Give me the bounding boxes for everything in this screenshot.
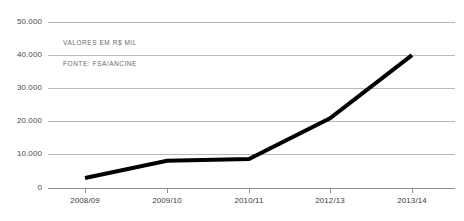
line-chart: 50.000 40.000 30.000 20.000 10.000 0 200…	[0, 0, 464, 221]
gridline-40000	[48, 55, 455, 56]
y-tick-label-40000: 40.000	[4, 50, 42, 59]
y-tick-label-30000: 30.000	[4, 83, 42, 92]
x-axis-line	[48, 188, 455, 189]
annotation-source: FONTE: FSA/ANCINE	[63, 60, 137, 67]
y-tick-label-50000: 50.000	[4, 17, 42, 26]
x-tick-mark-2013-14	[412, 189, 413, 193]
gridline-30000	[48, 88, 455, 89]
y-tick-label-0: 0	[4, 183, 42, 192]
y-tick-label-10000: 10.000	[4, 149, 42, 158]
gridline-50000	[48, 22, 455, 23]
series-line-valores	[85, 55, 412, 178]
annotation-units: VALORES EM R$ MIL	[63, 39, 137, 46]
gridline-10000	[48, 154, 455, 155]
x-tick-label-2008-09: 2008/09	[55, 196, 115, 205]
x-tick-mark-2008-09	[85, 189, 86, 193]
gridline-20000	[48, 121, 455, 122]
x-tick-label-2009-10: 2009/10	[137, 196, 197, 205]
x-tick-mark-2009-10	[167, 189, 168, 193]
x-tick-label-2010-11: 2010/11	[219, 196, 279, 205]
x-tick-mark-2010-11	[249, 189, 250, 193]
y-tick-label-20000: 20.000	[4, 116, 42, 125]
x-tick-label-2012-13: 2012/13	[300, 196, 360, 205]
x-tick-mark-2012-13	[330, 189, 331, 193]
x-tick-label-2013-14: 2013/14	[382, 196, 442, 205]
